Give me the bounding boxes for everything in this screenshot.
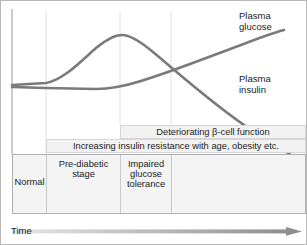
stage-cell-pre-diabetic: Pre-diabetic stage — [47, 155, 121, 213]
plasma-glucose-label-line1: Plasma — [239, 11, 272, 22]
stage-igt-line1: Impaired — [121, 159, 171, 169]
right-arrow-icon — [286, 227, 302, 236]
plasma-insulin-label: Plasma insulin — [239, 74, 271, 95]
stage-table: Normal Pre-diabetic stage Impaired gluco… — [12, 154, 306, 214]
stage-pre-diabetic-line2: stage — [47, 169, 120, 179]
time-axis-label: Time — [11, 225, 32, 236]
stage-igt-line3: tolerance — [121, 179, 171, 189]
time-axis-bar — [12, 229, 288, 233]
time-axis-arrow — [12, 227, 302, 236]
stage-cell-type-2-diabetes: Type 2 diabetes Diet- controlled Anti- d… — [172, 155, 306, 213]
band-beta-cell-function: Deteriorating β-cell function — [120, 125, 306, 139]
band-insulin-resistance: Increasing insulin resistance with age, … — [46, 139, 306, 153]
stage-cell-normal: Normal — [13, 155, 47, 213]
stage-normal-line1: Normal — [13, 177, 46, 187]
stage-pre-diabetic-line1: Pre-diabetic — [47, 159, 120, 169]
plasma-insulin-label-line2: insulin — [239, 85, 271, 96]
stage-cell-impaired-glucose-tolerance: Impaired glucose tolerance — [121, 155, 172, 213]
plasma-glucose-label: Plasma glucose — [239, 11, 272, 32]
plasma-insulin-label-line1: Plasma — [239, 74, 271, 85]
figure-panel: Plasma glucose Plasma insulin Deteriorat… — [0, 0, 307, 245]
stage-igt-line2: glucose — [121, 169, 171, 179]
plasma-glucose-label-line2: glucose — [239, 22, 272, 33]
